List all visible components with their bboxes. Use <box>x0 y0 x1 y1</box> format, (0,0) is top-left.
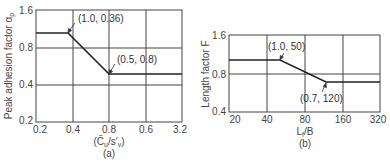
svg-text:1.6: 1.6 <box>212 30 226 41</box>
chart-b-y-ticks: 1.6 0.8 0.4 <box>212 30 226 117</box>
chart-b-annotation-arrows <box>280 53 326 92</box>
svg-text:0.4: 0.4 <box>66 124 80 135</box>
svg-text:1.6: 1.6 <box>19 5 33 16</box>
svg-text:0.4: 0.4 <box>212 106 226 117</box>
chart-a-caption: (a) <box>103 148 115 159</box>
chart-a-annotation-1: (1.0, 0.36) <box>78 13 124 24</box>
chart-b: (1.0, 50) (0.7, 120) 1.6 0.8 0.4 20 40 8… <box>200 30 387 149</box>
svg-text:0.6: 0.6 <box>139 124 153 135</box>
svg-text:0.8: 0.8 <box>102 124 116 135</box>
chart-b-caption: (b) <box>299 138 311 149</box>
svg-text:0.8: 0.8 <box>212 69 226 80</box>
svg-text:0.8: 0.8 <box>19 42 33 53</box>
chart-a-y-label: Peak adhesion factor αp <box>3 13 16 120</box>
chart-a-annotation-2: (0.5, 0.8) <box>117 54 157 65</box>
figure: (1.0, 0.36) (0.5, 0.8) 1.6 0.8 0.4 0.2 0… <box>0 0 390 162</box>
svg-text:80: 80 <box>299 114 311 125</box>
svg-text:40: 40 <box>261 114 273 125</box>
chart-a-x-label: (C̄u/s′v) <box>94 135 125 148</box>
chart-b-x-ticks: 20 40 80 160 320 <box>229 114 386 125</box>
chart-b-annotation-2: (0.7, 120) <box>300 93 343 104</box>
chart-b-annotation-1: (1.0, 50) <box>268 41 305 52</box>
svg-text:0.4: 0.4 <box>19 79 33 90</box>
chart-a: (1.0, 0.36) (0.5, 0.8) 1.6 0.8 0.4 0.2 0… <box>3 5 187 159</box>
chart-b-x-label: Lf/B <box>297 126 314 138</box>
svg-text:160: 160 <box>335 114 352 125</box>
svg-text:0.2: 0.2 <box>19 115 33 126</box>
svg-text:320: 320 <box>370 114 387 125</box>
chart-a-gridlines <box>36 10 182 122</box>
chart-a-y-ticks: 1.6 0.8 0.4 0.2 <box>19 5 33 126</box>
svg-text:20: 20 <box>229 114 241 125</box>
svg-text:0.2: 0.2 <box>33 124 47 135</box>
svg-text:3.2: 3.2 <box>173 124 187 135</box>
chart-b-y-label: Length factor F <box>200 40 211 107</box>
chart-a-x-ticks: 0.2 0.4 0.8 0.6 3.2 <box>33 124 187 135</box>
